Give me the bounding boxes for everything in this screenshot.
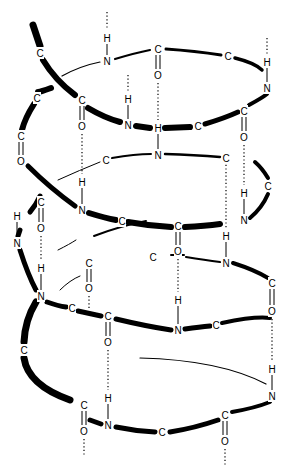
- atom-labels: HNCOCHNCCCOHNHCCOCOCNCCHNCOCCOHNHNHNCCOH…: [13, 32, 276, 447]
- atom-c: C: [240, 106, 247, 117]
- atom-h: H: [263, 57, 270, 68]
- atom-o: O: [174, 246, 182, 257]
- atom-h: H: [103, 33, 110, 44]
- backbone-back: [58, 49, 266, 384]
- atom-o: O: [17, 156, 25, 167]
- atom-n: N: [124, 120, 131, 131]
- atom-o: O: [104, 337, 112, 348]
- atom-c: C: [37, 197, 44, 208]
- atom-h: H: [174, 295, 181, 306]
- atom-n: N: [78, 205, 85, 216]
- atom-c: C: [264, 181, 271, 192]
- atom-c: C: [221, 410, 228, 421]
- atom-c: C: [149, 252, 156, 263]
- atom-n: N: [240, 215, 247, 226]
- atom-c: C: [118, 216, 125, 227]
- atom-c: C: [158, 427, 165, 438]
- atom-h: H: [37, 263, 44, 274]
- atom-o: O: [268, 306, 276, 317]
- atom-o: O: [85, 283, 93, 294]
- atom-c: C: [194, 121, 201, 132]
- atom-o: O: [221, 436, 229, 447]
- atom-h: H: [240, 188, 247, 199]
- atom-c: C: [85, 258, 92, 269]
- atom-h: H: [104, 393, 111, 404]
- atom-c: C: [78, 95, 85, 106]
- atom-h: H: [13, 211, 20, 222]
- atom-c: C: [17, 131, 24, 142]
- atom-n: N: [222, 258, 229, 269]
- atom-c: C: [104, 311, 111, 322]
- atom-c: C: [36, 48, 43, 59]
- atom-o: O: [80, 426, 88, 437]
- atom-n: N: [263, 83, 270, 94]
- atom-o: O: [240, 132, 248, 143]
- atom-c: C: [222, 153, 229, 164]
- atom-o: O: [154, 70, 162, 81]
- atom-o: O: [37, 223, 45, 234]
- atom-n: N: [268, 391, 275, 402]
- atom-n: N: [174, 325, 181, 336]
- atom-c: C: [102, 155, 109, 166]
- atom-n: N: [103, 56, 110, 67]
- atom-c: C: [174, 221, 181, 232]
- atom-n: N: [104, 420, 111, 431]
- atom-h: H: [222, 231, 229, 242]
- atom-h: H: [154, 123, 161, 134]
- atom-n: N: [37, 291, 44, 302]
- atom-c: C: [68, 303, 75, 314]
- atom-n: N: [13, 238, 20, 249]
- atom-c: C: [154, 44, 161, 55]
- covalent-bonds: [17, 44, 274, 435]
- alpha-helix-diagram: HNCOCHNCCCOHNHCCOCOCNCCHNCOCCOHNHNHNCCOH…: [0, 0, 287, 474]
- atom-h: H: [124, 94, 131, 105]
- atom-o: O: [78, 121, 86, 132]
- atom-c: C: [80, 400, 87, 411]
- atom-c: C: [268, 278, 275, 289]
- atom-h: H: [78, 177, 85, 188]
- atom-n: N: [154, 150, 161, 161]
- atom-c: C: [224, 51, 231, 62]
- atom-c: C: [212, 320, 219, 331]
- atom-c: C: [20, 345, 27, 356]
- atom-c: C: [33, 93, 40, 104]
- atom-h: H: [268, 364, 275, 375]
